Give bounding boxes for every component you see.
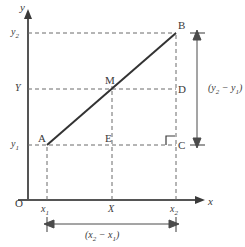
x-tick-x2-sub: 2	[174, 209, 178, 217]
origin-label: O	[15, 198, 23, 209]
y-tick-Y-main: Y	[15, 82, 21, 93]
point-label-B: B	[178, 20, 185, 31]
point-label-A: A	[38, 133, 46, 144]
point-label-C: C	[178, 140, 185, 151]
point-label-D: D	[178, 84, 186, 95]
x-tick-label-x2: x2	[170, 204, 178, 217]
horizontal-bracket-label: (x2 − x1)	[85, 230, 119, 243]
y-tick-label-y2: y2	[11, 27, 19, 40]
diagram-canvas	[0, 0, 245, 247]
y-tick-label-Y: Y	[15, 83, 21, 96]
vertical-measure-bracket	[190, 30, 205, 148]
y-tick-y2-sub: 2	[15, 32, 19, 40]
y-axis-arrowhead	[24, 9, 32, 19]
vertical-bracket-arrow-top	[193, 30, 201, 40]
point-label-M: M	[105, 75, 115, 86]
point-label-E: E	[105, 133, 112, 144]
vb-close: )	[239, 82, 242, 93]
vb-minus: −	[219, 82, 231, 93]
y-axis-label: y	[20, 2, 25, 13]
x-tick-label-X: X	[108, 204, 114, 217]
vertical-bracket-arrow-bottom	[193, 138, 201, 148]
horizontal-bracket-arrow-left	[44, 220, 54, 228]
right-angle-mark-at-C	[166, 136, 175, 145]
horizontal-bracket-arrow-right	[169, 220, 179, 228]
dashed-guides-group	[28, 33, 176, 200]
x-tick-x1-sub: 1	[45, 209, 49, 217]
hb-minus: −	[96, 229, 108, 240]
x-tick-X-main: X	[108, 203, 114, 214]
x-axis-label: x	[208, 196, 213, 207]
x-tick-label-x1: x1	[41, 204, 49, 217]
y-tick-label-y1: y1	[11, 139, 19, 152]
hb-close: )	[116, 229, 119, 240]
coordinate-diagram: y x O y2 Y y1 x1 X x2 A B M C D E (x2 − …	[0, 0, 245, 247]
x-axis-arrowhead	[195, 196, 205, 204]
vertical-bracket-label: (y2 − y1)	[208, 83, 242, 96]
y-tick-y1-sub: 1	[15, 144, 19, 152]
